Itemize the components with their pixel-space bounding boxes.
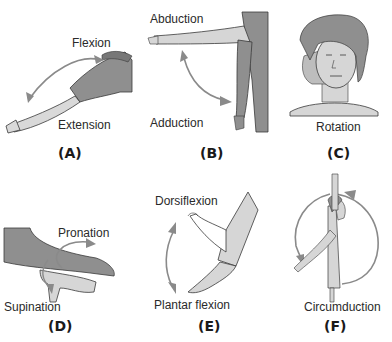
panel-tag-f: (F) <box>324 318 346 334</box>
panel-f: Circumduction (F) <box>270 170 392 342</box>
label-flexion: Flexion <box>72 36 111 50</box>
forearm-pronation-illustration <box>0 170 140 342</box>
label-supination: Supination <box>4 300 61 314</box>
panel-tag-d: (D) <box>48 318 72 334</box>
arm-circumduction-illustration <box>270 170 392 342</box>
label-abduction: Abduction <box>150 12 203 26</box>
label-extension: Extension <box>58 118 111 132</box>
label-pronation: Pronation <box>58 226 109 240</box>
label-rotation: Rotation <box>316 120 361 134</box>
panel-b: Abduction Adduction (B) <box>140 0 270 170</box>
panel-d: Pronation Supination (D) <box>0 170 140 342</box>
label-adduction: Adduction <box>150 116 203 130</box>
panel-c: Rotation (C) <box>270 0 392 170</box>
panel-tag-b: (B) <box>200 145 223 161</box>
label-circumduction: Circumduction <box>304 300 381 314</box>
label-dorsiflexion: Dorsiflexion <box>155 194 218 208</box>
label-plantar-flexion: Plantar flexion <box>154 298 230 312</box>
panel-tag-c: (C) <box>327 145 350 161</box>
panel-tag-a: (A) <box>58 145 82 161</box>
panel-tag-e: (E) <box>198 318 220 334</box>
panel-e: Dorsiflexion Plantar flexion (E) <box>140 170 270 342</box>
panel-a: Flexion Extension (A) <box>0 0 140 170</box>
